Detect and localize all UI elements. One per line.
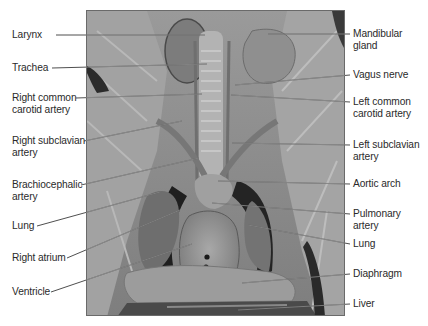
label-larynx: Larynx [12, 29, 42, 41]
label-pulmonary-artery: Pulmonary artery [353, 208, 428, 232]
label-ventricle: Ventricle [12, 286, 50, 298]
label-aortic-arch: Aortic arch [353, 178, 401, 190]
label-right-subclavian: Right subclavian artery [12, 135, 85, 159]
label-diaphragm: Diaphragm [353, 268, 402, 280]
label-trachea: Trachea [12, 62, 48, 74]
label-left-subclavian: Left subclavian artery [353, 139, 419, 163]
label-left-common-carotid: Left common carotid artery [353, 96, 411, 120]
dissection-photo-illustration [87, 11, 345, 316]
dissection-photo [86, 10, 345, 316]
label-right-atrium: Right atrium [12, 252, 66, 264]
anatomy-figure: LarynxTracheaRight common carotid artery… [0, 0, 428, 326]
label-brachiocephalic: Brachiocephalic artery [12, 179, 82, 203]
label-mandibular-gland: Mandibular gland [353, 28, 402, 52]
label-vagus-nerve: Vagus nerve [353, 69, 408, 81]
label-lung-right: Lung [12, 220, 34, 232]
label-lung-left: Lung [353, 238, 375, 250]
label-right-common-carotid: Right common carotid artery [12, 92, 76, 116]
label-liver: Liver [353, 298, 375, 310]
